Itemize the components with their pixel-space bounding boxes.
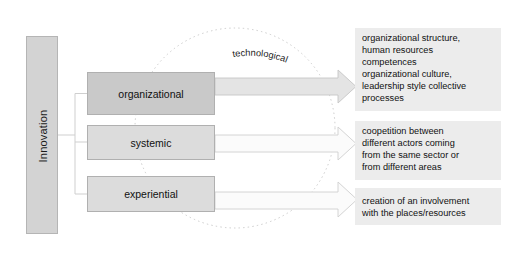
description-line: from different areas — [362, 161, 495, 173]
category-box-systemic: systemic — [87, 125, 215, 160]
description-line: from the same sector or — [362, 149, 495, 161]
description-line: coopetition between — [362, 125, 495, 137]
category-box-experiential: experiential — [87, 176, 215, 212]
description-line: processes — [362, 92, 495, 104]
category-label-experiential: experiential — [124, 188, 178, 200]
description-line: different actors coming — [362, 137, 495, 149]
description-line: leadership style collective — [362, 80, 495, 92]
block-arrow-1 — [215, 70, 356, 103]
block-arrow-2 — [215, 127, 356, 160]
description-line: human resources — [362, 44, 495, 56]
category-label-organizational: organizational — [118, 88, 183, 100]
description-block-experiential: creation of an involvement with the plac… — [355, 188, 501, 225]
description-line: competences — [362, 56, 495, 68]
bracket-connector — [58, 94, 87, 195]
description-block-systemic: coopetition between different actors com… — [355, 121, 501, 180]
category-box-organizational: organizational — [87, 72, 215, 115]
description-line: organizational structure, — [362, 32, 495, 44]
innovation-label: Innovation — [27, 37, 59, 235]
diagram-canvas: technological Innovation organizational … — [0, 0, 510, 259]
circle-label: technological — [232, 48, 290, 65]
category-label-systemic: systemic — [131, 137, 172, 149]
innovation-box: Innovation — [26, 36, 58, 234]
description-block-organizational: organizational structure, human resource… — [355, 28, 501, 111]
description-line: creation of an involvement — [362, 195, 495, 207]
block-arrow-3 — [215, 182, 357, 217]
description-line: with the places/resources — [362, 207, 495, 219]
description-line: organizational culture, — [362, 68, 495, 80]
